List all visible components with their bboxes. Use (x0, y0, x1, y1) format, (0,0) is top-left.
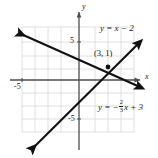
fraction-denominator: 3 (119, 107, 123, 114)
intersection-dot (106, 65, 111, 70)
y-tick-label-5: 5 (70, 37, 74, 45)
equation-label-line2: y = −23x + 3 (98, 99, 143, 114)
y-axis-label: y (82, 3, 86, 11)
intersection-point-label: (3, 1) (94, 49, 112, 58)
x-tick-label-negative-5: -5 (14, 83, 21, 91)
equation-label-line2-prefix: y = − (98, 102, 119, 112)
x-axis-label: x (145, 73, 149, 81)
fraction-two-thirds: 23 (119, 99, 123, 114)
equation-label-line2-suffix: x + 3 (124, 102, 143, 112)
graph-figure: x y -5 5 -5 (3, 1) y = x − 2 y = −23x + … (0, 0, 158, 158)
y-tick-label-negative-5: -5 (68, 115, 75, 123)
equation-label-line1: y = x − 2 (100, 24, 134, 33)
equation-label-line1-text: y = x − 2 (100, 23, 134, 33)
coordinate-plane-svg (0, 0, 158, 158)
